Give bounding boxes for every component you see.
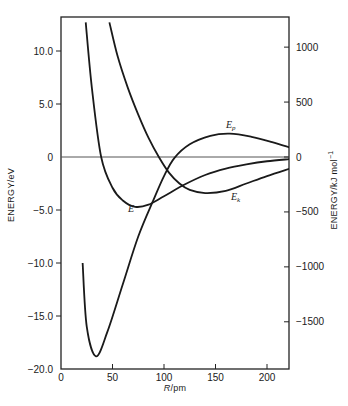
left-y-tick-label: −10.0 [28, 258, 54, 269]
right-y-tick-label: 0 [296, 152, 302, 163]
plot-frame [61, 17, 289, 369]
curve-label-E: E [127, 203, 134, 214]
x-tick-label: 50 [107, 372, 119, 383]
right-y-tick-label: −500 [296, 206, 319, 217]
left-y-tick-label: −5.0 [33, 205, 53, 216]
x-axis-ticks: 050100150200 [58, 364, 276, 383]
left-y-tick-label: −20.0 [28, 364, 54, 375]
right-y-tick-label: 1000 [296, 42, 319, 53]
left-y-tick-label: 5.0 [39, 99, 53, 110]
x-axis-title: R/pm [164, 383, 187, 393]
curve-label-Ep: Ep [225, 119, 236, 132]
left-y-tick-label: −15.0 [28, 311, 54, 322]
left-y-tick-label: 0 [47, 152, 53, 163]
curve-Ek [109, 22, 289, 193]
curve-label-Ek: Ek [230, 191, 241, 204]
curve-Ep [83, 134, 290, 357]
left-y-axis-title: ENERGY/eV [6, 168, 16, 222]
left-y-tick-label: 10.0 [34, 46, 54, 57]
right-y-tick-label: −1000 [296, 261, 325, 272]
energy-chart: 050100150200 10.05.00−5.0−10.0−15.0−20.0… [0, 0, 348, 406]
right-y-axis-ticks: 10005000−500−1000−1500 [284, 42, 325, 328]
x-tick-label: 200 [259, 372, 276, 383]
right-y-tick-label: −1500 [296, 316, 325, 327]
x-tick-label: 100 [156, 372, 173, 383]
curves [83, 22, 290, 356]
x-tick-label: 150 [207, 372, 224, 383]
left-y-axis-ticks: 10.05.00−5.0−10.0−15.0−20.0 [28, 46, 61, 375]
right-y-axis-title: ENERGY/kJ mol−1 [327, 150, 339, 229]
right-y-tick-label: 500 [296, 97, 313, 108]
x-tick-label: 0 [58, 372, 64, 383]
